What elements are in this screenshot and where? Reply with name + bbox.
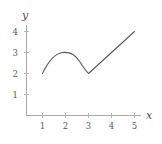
y-tick-label-3: 3 <box>4 49 18 58</box>
linear-curve-segment <box>89 32 135 74</box>
y-tick-label-4: 4 <box>4 28 18 37</box>
x-tick-label-5: 5 <box>128 122 142 131</box>
arch-curve-segment <box>43 52 89 73</box>
x-tick-label-2: 2 <box>59 122 73 131</box>
x-tick-label-1: 1 <box>36 122 50 131</box>
x-tick-label-4: 4 <box>105 122 119 131</box>
y-axis-label: y <box>22 10 28 21</box>
y-tick-label-2: 2 <box>4 70 18 79</box>
y-tick-label-1: 1 <box>4 91 18 100</box>
function-graph-figure: 4 3 2 1 1 2 3 4 5 y x <box>0 0 162 144</box>
x-axis-label: x <box>146 110 152 121</box>
x-tick-label-3: 3 <box>82 122 96 131</box>
